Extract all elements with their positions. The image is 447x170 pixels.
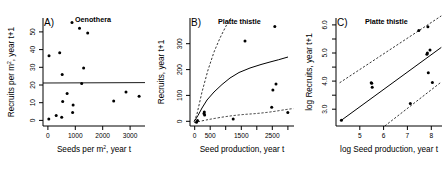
panel-a-plot: 0 10 20 30 40 50 0 1000 2000 3000 — [0, 0, 150, 170]
data-point — [275, 82, 278, 85]
panel-c-plot: 3.0 4.0 5.0 6.0 5 6 7 8 — [299, 0, 447, 170]
panel-b-xlabel: Seed production, year t — [200, 145, 285, 154]
panel-a-ytick-labels: 0 10 20 30 40 50 — [29, 28, 36, 122]
xtick-label: 1000 — [68, 132, 83, 139]
xtick-label: 0 — [193, 132, 197, 139]
data-point — [86, 32, 89, 35]
data-point — [371, 86, 374, 89]
xtick-label: 0 — [46, 132, 50, 139]
three-panel-figure: 0 10 20 30 40 50 0 1000 2000 3000 — [0, 0, 447, 170]
data-point — [47, 118, 50, 121]
data-point — [80, 82, 83, 85]
ytick-label: 300 — [176, 38, 183, 49]
data-point — [71, 111, 74, 114]
ytick-label: 200 — [176, 64, 183, 75]
data-point — [82, 67, 85, 70]
panel-c-axes — [332, 18, 442, 130]
panel-c-regression-line — [341, 47, 441, 120]
ytick-label: 3.0 — [321, 104, 328, 113]
panel-b-lower-band — [194, 109, 293, 123]
panel-a-ylabel: Recruits per m2, year t+1 — [6, 26, 16, 117]
xtick-label: 1500 — [234, 132, 249, 139]
xtick-label: 500 — [205, 132, 216, 139]
data-point — [71, 21, 74, 24]
panel-b-plot: 0 100 200 300 0 500 1500 2500 — [150, 0, 299, 170]
panel-a: 0 10 20 30 40 50 0 1000 2000 3000 — [0, 0, 150, 170]
panel-b-data-points — [195, 25, 289, 124]
data-point — [48, 54, 51, 57]
data-point — [431, 81, 434, 84]
data-point — [203, 110, 206, 113]
panel-a-axes — [39, 18, 145, 130]
data-point — [66, 92, 69, 95]
data-point — [60, 116, 63, 119]
ytick-label: 40 — [29, 46, 36, 54]
data-point — [273, 25, 276, 28]
panel-b-upper-band — [194, 18, 231, 122]
panel-c-lower-band — [385, 82, 442, 126]
panel-c-ytick-labels: 3.0 4.0 5.0 6.0 — [321, 20, 328, 114]
ytick-label: 50 — [29, 28, 36, 36]
data-point — [112, 100, 115, 103]
data-point — [286, 111, 289, 114]
data-point — [429, 49, 432, 52]
data-point — [125, 90, 128, 93]
data-point — [340, 119, 343, 122]
data-point — [244, 39, 247, 42]
data-point — [61, 73, 64, 76]
ytick-label: 10 — [29, 99, 36, 107]
data-point — [417, 29, 420, 32]
xtick-label: 7 — [406, 132, 410, 139]
panel-a-label: A) — [44, 17, 54, 28]
data-point — [271, 89, 274, 92]
xtick-label: 5 — [358, 132, 362, 139]
ytick-label: 30 — [29, 63, 36, 71]
data-point — [409, 102, 412, 105]
panel-c-xtick-labels: 5 6 7 8 — [358, 132, 434, 139]
data-point — [58, 51, 61, 54]
panel-a-xtick-labels: 0 1000 2000 3000 — [46, 132, 138, 139]
ytick-label: 5.0 — [321, 48, 328, 57]
data-point — [61, 100, 64, 103]
data-point — [270, 106, 273, 109]
xtick-label: 8 — [429, 132, 433, 139]
panel-c: 3.0 4.0 5.0 6.0 5 6 7 8 — [299, 0, 447, 170]
data-point — [427, 71, 430, 74]
panel-a-title: Oenothera — [75, 15, 112, 24]
data-point — [426, 51, 429, 54]
panel-b-ytick-labels: 0 100 200 300 — [176, 38, 183, 123]
xtick-label: 6 — [382, 132, 386, 139]
panel-b-label: B) — [191, 17, 201, 28]
panel-c-title: Platte thistle — [365, 17, 408, 26]
data-point — [232, 118, 235, 121]
panel-b-ylabel: Recruits, year t+1 — [157, 39, 166, 104]
ytick-label: 0 — [176, 119, 183, 123]
ytick-label: 6.0 — [321, 20, 328, 29]
ytick-label: 100 — [176, 90, 183, 101]
xtick-label: 2000 — [95, 132, 110, 139]
data-point — [55, 114, 58, 117]
xtick-label: 3000 — [123, 132, 138, 139]
data-point — [72, 104, 75, 107]
ytick-label: 0 — [29, 118, 36, 122]
data-point — [426, 25, 429, 28]
xtick-label: 2500 — [265, 132, 280, 139]
data-point — [203, 114, 206, 117]
panel-a-xlabel: Seeds per m2, year t — [57, 144, 132, 154]
data-point — [196, 119, 199, 122]
data-point — [370, 82, 373, 85]
data-point — [138, 95, 141, 98]
panel-b-axes — [186, 18, 294, 130]
panel-c-xlabel: log Seed production, year t — [340, 145, 439, 154]
panel-b-xtick-labels: 0 500 1500 2500 — [193, 132, 280, 139]
ytick-label: 4.0 — [321, 76, 328, 85]
panel-b-title: Platte thistle — [218, 17, 261, 26]
ytick-label: 20 — [29, 81, 36, 89]
panel-c-ylabel: log Recruits, year t+1 — [305, 33, 314, 111]
panel-a-data-points — [47, 21, 140, 121]
panel-b: 0 100 200 300 0 500 1500 2500 — [150, 0, 299, 170]
panel-c-label: C) — [337, 17, 348, 28]
data-point — [78, 27, 81, 30]
